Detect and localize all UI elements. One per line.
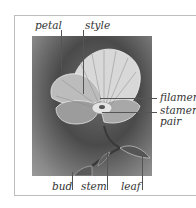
label-bud: bud (52, 181, 72, 192)
leaf-leader-line (142, 156, 143, 190)
label-stem: stem (81, 181, 107, 192)
label-pair: pair (160, 116, 181, 127)
filament-leader-line (100, 98, 157, 99)
label-filament: filament (160, 92, 196, 103)
label-petal: petal (35, 20, 62, 31)
label-leaf: leaf (121, 181, 141, 192)
flower-drawing (32, 36, 152, 176)
flower-illustration (32, 36, 152, 176)
stem-leader-line (107, 148, 108, 190)
petal-leader-line (61, 30, 62, 70)
label-style: style (85, 20, 110, 31)
style-leader-line (83, 30, 84, 94)
stamen-leader-line (102, 112, 157, 113)
